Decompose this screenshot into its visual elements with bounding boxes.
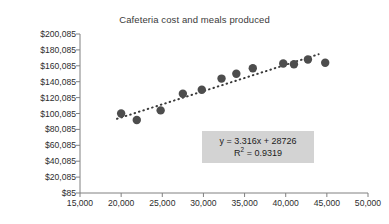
trendline-equation-box: y = 3.316x + 28726 R2 = 0.9319 xyxy=(202,131,314,163)
data-point xyxy=(117,109,125,117)
data-point xyxy=(156,106,164,114)
r2-value: = 0.9319 xyxy=(244,148,282,158)
data-point xyxy=(232,70,240,78)
data-point xyxy=(198,86,206,94)
data-point xyxy=(304,55,312,63)
trendline xyxy=(117,54,319,119)
data-point xyxy=(290,60,298,68)
data-point xyxy=(217,74,225,82)
chart-container: Cafeteria cost and meals produced $85$20… xyxy=(0,0,389,224)
data-point xyxy=(279,59,287,67)
plot-area xyxy=(0,0,389,224)
data-point xyxy=(179,89,187,97)
trendline-equation-text: y = 3.316x + 28726 xyxy=(219,136,296,146)
trendline-r-squared-text: R2 = 0.9319 xyxy=(234,148,282,158)
data-points xyxy=(117,55,329,124)
data-point xyxy=(321,58,329,66)
data-point xyxy=(249,64,257,72)
data-point xyxy=(133,116,141,124)
